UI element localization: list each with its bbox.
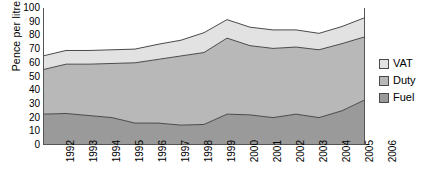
y-tick-label: 20 [14, 113, 40, 123]
x-tick-label-text: 2006 [387, 140, 398, 162]
x-tick-label: 2003 [296, 126, 307, 166]
y-tick-label: 0 [14, 140, 40, 150]
legend-swatch-icon [379, 93, 389, 103]
chart-legend: VATDutyFuel [379, 55, 437, 106]
x-tick-label: 2002 [273, 126, 284, 166]
x-tick-label: 2004 [319, 126, 330, 166]
x-tick-label: 1994 [89, 126, 100, 166]
y-tick-label: 40 [14, 85, 40, 95]
x-tick-label: 2005 [342, 126, 353, 166]
x-tick-label: 1999 [204, 126, 215, 166]
x-tick-label: 1997 [158, 126, 169, 166]
y-tick-label: 100 [14, 3, 40, 13]
y-tick-label: 70 [14, 44, 40, 54]
y-tick-label: 60 [14, 58, 40, 68]
stacked-area-chart: Pence per litre 0102030405060708090100 1… [0, 0, 437, 190]
area-series-svg [43, 8, 365, 145]
x-tick-label: 2000 [227, 126, 238, 166]
plot-area [43, 8, 365, 145]
y-tick-label: 80 [14, 30, 40, 40]
x-tick-label: 1992 [43, 126, 54, 166]
y-tick-label: 90 [14, 17, 40, 27]
legend-label: VAT [393, 58, 413, 69]
y-tick-label: 30 [14, 99, 40, 109]
y-axis-tick-labels: 0102030405060708090100 [14, 0, 40, 190]
figure-caption [6, 176, 426, 186]
y-tick-label: 50 [14, 72, 40, 82]
x-tick-label: 1995 [112, 126, 123, 166]
x-tick-label: 1998 [181, 126, 192, 166]
y-tick-label: 10 [14, 126, 40, 136]
legend-label: Duty [393, 75, 416, 86]
legend-item-vat[interactable]: VAT [379, 55, 437, 72]
x-tick-label: 1996 [135, 126, 146, 166]
x-tick-label: 1993 [66, 126, 77, 166]
legend-swatch-icon [379, 76, 389, 86]
legend-item-duty[interactable]: Duty [379, 72, 437, 89]
legend-item-fuel[interactable]: Fuel [379, 89, 437, 106]
x-tick-label: 2001 [250, 126, 261, 166]
x-tick-label: 2006 [365, 126, 376, 166]
legend-swatch-icon [379, 59, 389, 69]
legend-label: Fuel [393, 92, 414, 103]
